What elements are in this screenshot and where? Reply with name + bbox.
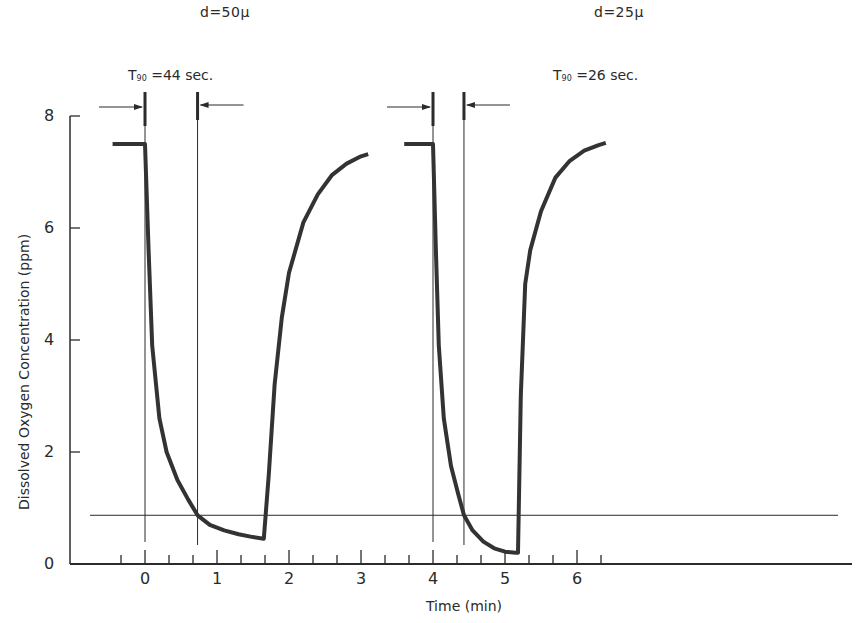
arrow-left-icon: [200, 102, 209, 108]
y-tick-label: 4: [44, 330, 54, 349]
response-curve-0: [113, 144, 369, 539]
condition-label-25: d=25μ: [594, 4, 644, 20]
x-tick-label: 3: [356, 569, 366, 588]
y-tick-label: 2: [44, 442, 54, 461]
arrow-right-icon: [134, 104, 143, 110]
t90-prefix: T: [128, 67, 137, 83]
t90-sub: 90: [562, 74, 572, 83]
t90-prefix: T: [553, 67, 562, 83]
x-tick-label: 4: [428, 569, 438, 588]
t90-label-50: T90 =44 sec.: [128, 67, 213, 83]
arrow-right-icon: [422, 104, 431, 110]
y-tick-label: 8: [44, 106, 54, 125]
t90-value: =26 sec.: [576, 67, 638, 83]
x-tick-label: 5: [500, 569, 510, 588]
y-axis-title: Dissolved Oxygen Concentration (ppm): [16, 234, 32, 510]
plot-area: [0, 0, 858, 623]
t90-value: =44 sec.: [151, 67, 213, 83]
y-tick-label: 6: [44, 218, 54, 237]
x-tick-label: 0: [140, 569, 150, 588]
arrow-left-icon: [466, 102, 475, 108]
t90-label-25: T90 =26 sec.: [553, 67, 638, 83]
t90-sub: 90: [137, 74, 147, 83]
x-tick-label: 6: [572, 569, 582, 588]
y-tick-label: 0: [44, 554, 54, 573]
x-tick-label: 1: [212, 569, 222, 588]
x-tick-label: 2: [284, 569, 294, 588]
response-curve-1: [404, 143, 606, 553]
x-axis-title: Time (min): [426, 598, 502, 614]
condition-label-50: d=50μ: [200, 4, 250, 20]
